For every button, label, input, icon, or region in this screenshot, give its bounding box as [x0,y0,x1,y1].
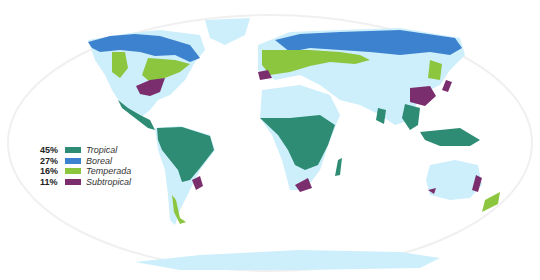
legend-swatch-boreal [65,158,81,164]
legend-label: Subtropical [86,177,131,188]
legend-swatch-temperate [65,168,81,174]
legend: 45% Tropical 27% Boreal 16% Temperada 11… [40,145,131,187]
legend-pct: 11% [40,177,62,188]
legend-item-temperate: 16% Temperada [40,166,131,177]
legend-item-tropical: 45% Tropical [40,145,131,156]
legend-label: Temperada [86,166,131,177]
world-forest-map [0,0,540,280]
legend-pct: 45% [40,145,62,156]
legend-swatch-tropical [65,147,81,153]
legend-item-boreal: 27% Boreal [40,156,131,167]
legend-swatch-subtropical [65,179,81,185]
australia-land [426,160,482,200]
legend-item-subtropical: 11% Subtropical [40,177,131,188]
legend-label: Tropical [86,145,117,156]
legend-label: Boreal [86,156,112,167]
legend-pct: 16% [40,166,62,177]
legend-pct: 27% [40,156,62,167]
